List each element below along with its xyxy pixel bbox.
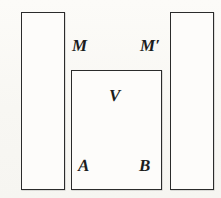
label-V: V: [109, 87, 121, 104]
left-column-rectangle: [21, 12, 65, 190]
label-B: B: [139, 157, 151, 174]
right-column-rectangle: [170, 12, 214, 190]
label-A: A: [78, 157, 90, 174]
figure-canvas: M M′ V A B: [0, 0, 221, 198]
label-M: M: [72, 37, 87, 54]
label-M-prime: M′: [140, 37, 160, 54]
